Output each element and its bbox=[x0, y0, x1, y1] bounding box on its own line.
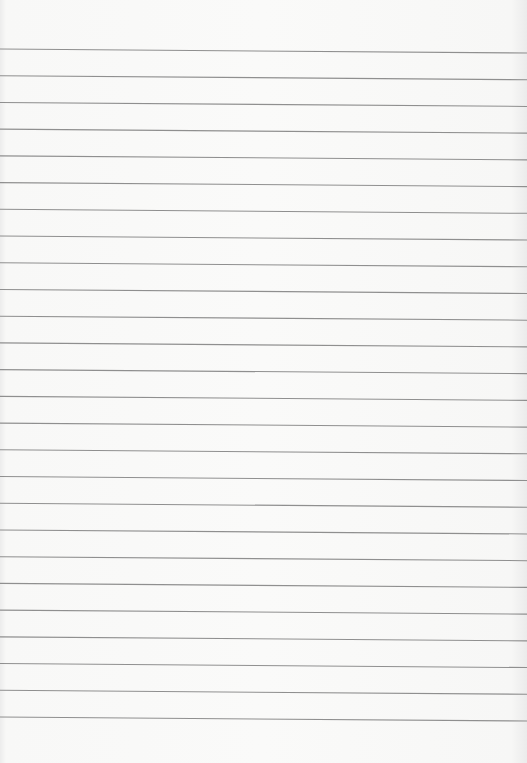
ruled-line bbox=[0, 263, 527, 267]
ruled-line bbox=[0, 156, 527, 160]
ruled-line bbox=[0, 183, 527, 187]
ruled-line bbox=[0, 129, 527, 133]
ruled-line bbox=[0, 610, 527, 614]
lined-paper-sheet bbox=[0, 0, 527, 763]
ruled-line bbox=[0, 396, 527, 400]
ruled-line bbox=[0, 370, 527, 374]
ruled-line bbox=[0, 477, 527, 481]
ruled-line bbox=[0, 102, 527, 106]
ruled-line bbox=[0, 76, 527, 80]
ruled-line bbox=[0, 637, 527, 641]
ruled-line bbox=[0, 343, 527, 347]
ruled-lines bbox=[0, 0, 527, 763]
ruled-line bbox=[0, 503, 527, 507]
ruled-line bbox=[0, 423, 527, 427]
ruled-line bbox=[0, 664, 527, 668]
ruled-line bbox=[0, 49, 527, 53]
ruled-line bbox=[0, 209, 527, 213]
ruled-line bbox=[0, 717, 527, 721]
ruled-line bbox=[0, 316, 527, 320]
ruled-line bbox=[0, 583, 527, 587]
ruled-line bbox=[0, 450, 527, 454]
ruled-line bbox=[0, 557, 527, 561]
ruled-line bbox=[0, 236, 527, 240]
ruled-line bbox=[0, 289, 527, 293]
ruled-line bbox=[0, 530, 527, 534]
ruled-line bbox=[0, 690, 527, 694]
